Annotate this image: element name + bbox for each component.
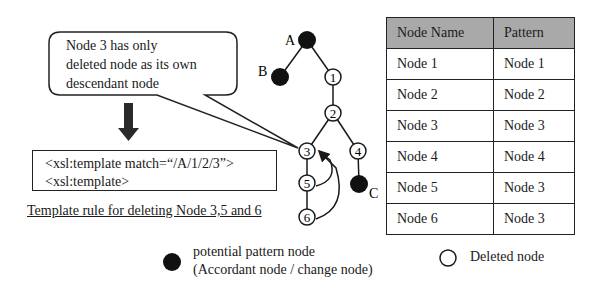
column-header-pattern: Pattern: [494, 18, 575, 49]
node-B: [271, 68, 289, 86]
cell-node-name: Node 2: [387, 80, 494, 111]
table-row: Node 3 Node 3: [387, 111, 575, 142]
cell-pattern: Node 1: [494, 49, 575, 80]
legend-filled-line2: (Accordant node / change node): [193, 261, 373, 279]
back-arrows: [316, 154, 339, 219]
template-line: <xsl:template match=“/A/1/2/3”>: [45, 155, 276, 173]
table-row: Node 5 Node 3: [387, 173, 575, 204]
legend-hollow: Deleted node: [470, 248, 544, 266]
svg-text:3: 3: [304, 144, 311, 159]
callout-line: Node 3 has only: [66, 36, 236, 55]
svg-text:B: B: [258, 64, 267, 79]
legend-filled: potential pattern node (Accordant node /…: [193, 243, 373, 279]
node-pattern-table: Node Name Pattern Node 1 Node 1 Node 2 N…: [386, 17, 575, 235]
tree-edges: [280, 40, 359, 217]
svg-text:6: 6: [304, 210, 311, 225]
node-4: 4: [350, 143, 366, 159]
table-row: Node 6 Node 3: [387, 204, 575, 235]
cell-pattern: Node 2: [494, 80, 575, 111]
callout-line: deleted node as its own: [66, 55, 236, 74]
cell-node-name: Node 3: [387, 111, 494, 142]
cell-node-name: Node 5: [387, 173, 494, 204]
callout-line: descendant node: [66, 74, 236, 93]
table-row: Node 1 Node 1: [387, 49, 575, 80]
column-header-node-name: Node Name: [387, 18, 494, 49]
table-header-row: Node Name Pattern: [387, 18, 575, 49]
cell-node-name: Node 6: [387, 204, 494, 235]
node-5: 5: [299, 175, 315, 191]
node-C: [350, 175, 368, 193]
svg-text:2: 2: [330, 106, 337, 121]
cell-pattern: Node 3: [494, 173, 575, 204]
svg-text:5: 5: [304, 176, 311, 191]
svg-text:4: 4: [355, 144, 362, 159]
template-caption: Template rule for deleting Node 3,5 and …: [27, 203, 262, 219]
node-A: [298, 31, 316, 49]
table-row: Node 2 Node 2: [387, 80, 575, 111]
legend-filled-line1: potential pattern node: [193, 243, 373, 261]
node-6: 6: [299, 209, 315, 225]
callout-text: Node 3 has only deleted node as its own …: [66, 36, 236, 93]
cell-pattern: Node 4: [494, 142, 575, 173]
template-line: <xsl:template>: [45, 173, 276, 191]
template-rule-box: <xsl:template match=“/A/1/2/3”> <xsl:tem…: [32, 150, 277, 191]
node-1: 1: [325, 69, 341, 85]
table-row: Node 4 Node 4: [387, 142, 575, 173]
cell-node-name: Node 1: [387, 49, 494, 80]
svg-text:C: C: [369, 186, 378, 201]
hollow-node-legend-icon: [440, 250, 456, 266]
cell-pattern: Node 3: [494, 111, 575, 142]
node-2: 2: [325, 105, 341, 121]
svg-text:A: A: [285, 33, 296, 48]
node-3: 3: [299, 143, 315, 159]
filled-node-legend-icon: [163, 253, 181, 271]
down-arrow-icon: [118, 103, 139, 141]
svg-text:1: 1: [330, 70, 337, 85]
cell-node-name: Node 4: [387, 142, 494, 173]
cell-pattern: Node 3: [494, 204, 575, 235]
